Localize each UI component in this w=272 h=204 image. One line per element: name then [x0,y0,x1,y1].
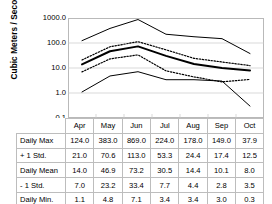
table-row: + 1 Std.21.070.6113.053.324.417.412.5 [17,148,264,163]
table-body: Daily Max124.0383.0869.0224.0178.0149.03… [17,133,264,204]
table-cell: 3.4 [179,192,207,204]
y-axis-tick-label: 1.0 [2,89,66,97]
table-row-label: Daily Max [17,133,66,148]
table-cell: 70.6 [94,148,122,163]
table-cell: 7.7 [151,178,179,193]
table-cell: 73.2 [122,163,150,178]
table-cell: 37.9 [236,133,264,148]
table-cell: 33.4 [122,178,150,193]
table-cell: 124.0 [66,133,94,148]
table-cell: 10.1 [207,163,235,178]
table-cell: 178.0 [179,133,207,148]
table-cell: 7.1 [122,192,150,204]
series-line [82,72,250,106]
table-cell: 23.2 [94,178,122,193]
table-column-header: Oct [236,119,264,134]
table-row: - 1 Std.7.023.233.47.74.42.83.5 [17,178,264,193]
table-cell: 1.1 [66,192,94,204]
table-cell: 14.4 [179,163,207,178]
data-table: AprMayJunJulAugSepOct Daily Max124.0383.… [16,118,264,204]
table-cell: 21.0 [66,148,94,163]
table-row: Daily Max124.0383.0869.0224.0178.0149.03… [17,133,264,148]
y-axis-tick-label: 1000.0 [2,14,66,22]
table-cell: 869.0 [122,133,150,148]
table-row-label: Daily Mean [17,163,66,178]
table-row-label: + 1 Std. [17,148,66,163]
table-cell: 3.4 [151,192,179,204]
table-cell: 3.0 [207,192,235,204]
table-header-row: AprMayJunJulAugSepOct [17,119,264,134]
table-row: Daily Mean14.046.973.230.514.410.18.0 [17,163,264,178]
table-cell: 3.5 [236,178,264,193]
y-axis-tick-label: 10.0 [2,64,66,72]
table-cell: 4.8 [94,192,122,204]
table-cell: 24.4 [179,148,207,163]
y-axis-tick-label: 100.0 [2,39,66,47]
table-column-header: Sep [207,119,235,134]
table-column-header: May [94,119,122,134]
table-cell: 2.8 [207,178,235,193]
table-cell: 113.0 [122,148,150,163]
table-cell: 46.9 [94,163,122,178]
table-corner-cell [17,119,66,134]
table-cell: 4.4 [179,178,207,193]
plot-area [68,18,264,118]
table-column-header: Jun [122,119,150,134]
table-cell: 17.4 [207,148,235,163]
table-cell: 53.3 [151,148,179,163]
table-cell: 12.5 [236,148,264,163]
plot-lines [68,18,264,118]
table-column-header: Jul [151,119,179,134]
table-row-label: - 1 Std. [17,178,66,193]
table-row: Daily Min.1.14.87.13.43.43.00.3 [17,192,264,204]
table-cell: 14.0 [66,163,94,178]
table-row-label: Daily Min. [17,192,66,204]
table-cell: 0.3 [236,192,264,204]
table-cell: 7.0 [66,178,94,193]
y-axis-tick-labels: 1000.0100.010.01.00.1 [0,18,66,118]
table-column-header: Aug [179,119,207,134]
table-cell: 8.0 [236,163,264,178]
table-column-header: Apr [66,119,94,134]
table-cell: 149.0 [207,133,235,148]
table-cell: 224.0 [151,133,179,148]
table-cell: 30.5 [151,163,179,178]
table-cell: 383.0 [94,133,122,148]
chart-figure: Cubic Meters / Second 1000.0100.010.01.0… [0,0,272,204]
